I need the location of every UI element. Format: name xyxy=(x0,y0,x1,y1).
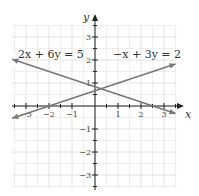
y-tick-label: −1 xyxy=(79,125,91,134)
equation-label-2: −x + 3y = 2 xyxy=(113,48,181,61)
line-1 xyxy=(12,59,175,113)
x-axis-label: x xyxy=(185,108,192,121)
line-arrow-icon xyxy=(169,109,176,114)
lines xyxy=(12,59,175,119)
y-tick-label: −2 xyxy=(79,148,91,157)
x-tick-label: 3 xyxy=(161,110,166,119)
line-arrow-icon xyxy=(169,63,176,68)
x-tick-label: −2 xyxy=(43,110,55,119)
y-axis-label: y xyxy=(82,11,90,24)
x-tick-label: 2 xyxy=(138,110,143,119)
x-axis-arrow-icon xyxy=(177,103,184,109)
x-tick-label: 1 xyxy=(115,110,120,119)
equation-label-1: 2x + 6y = 5 xyxy=(18,48,84,61)
y-tick-label: 2 xyxy=(86,56,91,65)
y-axis-arrow-icon xyxy=(92,14,98,21)
graph: −3−2−1123321−1−2−3 x y 2x + 6y = 5 −x + … xyxy=(0,0,199,196)
y-tick-label: 3 xyxy=(86,33,91,42)
line-arrow-icon xyxy=(12,114,19,119)
y-tick-label: −3 xyxy=(79,171,91,180)
x-tick-label: −1 xyxy=(66,110,78,119)
line-2 xyxy=(12,64,175,118)
